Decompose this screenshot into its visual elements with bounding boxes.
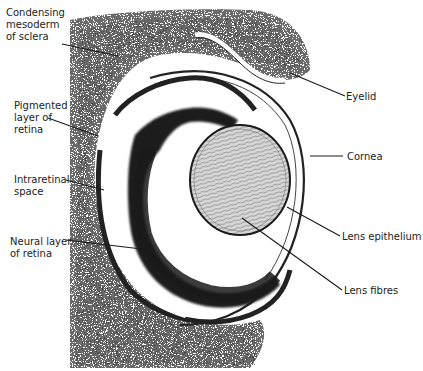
label-condensing-mesoderm: Condensing mesoderm of sclera	[6, 7, 65, 43]
label-eyelid: Eyelid	[346, 91, 376, 103]
label-lens-fibres: Lens fibres	[344, 285, 398, 297]
lens	[190, 125, 290, 235]
leader-lens-epithelium	[287, 207, 340, 236]
label-pigmented-layer: Pigmented layer of retina	[14, 100, 68, 136]
label-cornea: Cornea	[347, 151, 383, 163]
leader-eyelid	[290, 73, 345, 96]
label-intraretinal-space: Intraretinal space	[14, 174, 69, 198]
label-lens-epithelium: Lens epithelium	[342, 231, 422, 243]
label-neural-layer: Neural layer of retina	[10, 236, 71, 260]
